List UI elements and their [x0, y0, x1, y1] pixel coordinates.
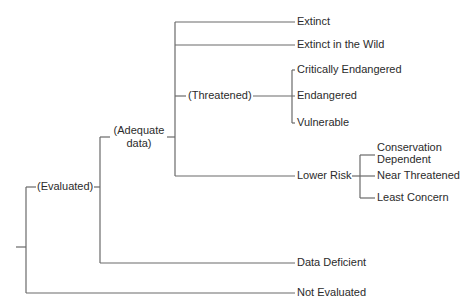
node-adequate-data-line2: data) — [111, 137, 167, 150]
node-near-threatened: Near Threatened — [376, 169, 461, 182]
node-lower-risk: Lower Risk — [296, 169, 352, 182]
node-least-concern: Least Concern — [376, 191, 450, 204]
node-critically-endangered: Critically Endangered — [296, 63, 403, 76]
node-data-deficient: Data Deficient — [296, 256, 367, 269]
node-extinct: Extinct — [296, 15, 331, 28]
node-not-evaluated: Not Evaluated — [296, 286, 367, 299]
node-adequate-data-line1: (Adequate — [111, 124, 167, 137]
node-conservation-dependent-line2: Dependent — [376, 153, 432, 166]
node-vulnerable: Vulnerable — [296, 116, 350, 129]
node-endangered: Endangered — [296, 89, 358, 102]
node-evaluated: (Evaluated) — [36, 180, 94, 193]
node-extinct-in-the-wild: Extinct in the Wild — [296, 38, 385, 51]
node-threatened: (Threatened) — [187, 89, 253, 102]
